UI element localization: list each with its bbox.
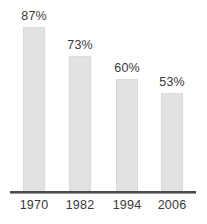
bar-column-0: 87%: [11, 0, 57, 193]
x-tick-label-1: 1982: [57, 198, 103, 213]
bar-value-label-3: 53%: [149, 76, 195, 89]
plot-area: 87% 73% 60% 53%: [0, 0, 207, 193]
bar-group-2: 60%: [104, 0, 150, 193]
bar-2: [116, 79, 138, 193]
bar-column-3: 53%: [149, 0, 195, 193]
bar-column-1: 73%: [57, 0, 103, 193]
bar-group-1: 73%: [57, 0, 103, 193]
x-tick-label-3: 2006: [149, 198, 195, 213]
x-tick-label-2: 1994: [104, 198, 150, 213]
bar-group-3: 53%: [149, 0, 195, 193]
bar-chart: 87% 73% 60% 53% 1970 1982 199: [0, 0, 207, 224]
bar-value-label-2: 60%: [104, 62, 150, 75]
bar-value-label-0: 87%: [11, 10, 57, 23]
bar-3: [161, 93, 183, 193]
bar-group-0: 87%: [11, 0, 57, 193]
bar-value-label-1: 73%: [57, 39, 103, 52]
bar-1: [69, 56, 91, 193]
bar-column-2: 60%: [104, 0, 150, 193]
x-axis-tick-labels: 1970 1982 1994 2006: [0, 198, 207, 218]
x-tick-label-0: 1970: [11, 198, 57, 213]
x-axis-line: [10, 191, 196, 194]
bar-0: [23, 27, 45, 193]
